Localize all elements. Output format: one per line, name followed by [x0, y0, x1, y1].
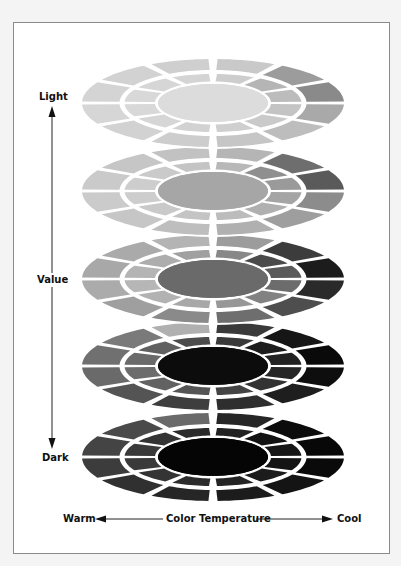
disc-center: [158, 172, 268, 210]
axis-label-cool: Cool: [337, 513, 362, 525]
axis-label-warm: Warm: [63, 513, 96, 525]
disc-center: [158, 260, 268, 298]
axis-label-value: Value: [37, 273, 68, 287]
disc-center: [158, 84, 268, 122]
disc-center: [158, 438, 268, 476]
disc-center: [158, 347, 268, 385]
axis-label-color-temperature: Color Temperature: [166, 513, 271, 525]
axis-label-light: Light: [39, 91, 68, 103]
axis-label-dark: Dark: [42, 452, 69, 464]
